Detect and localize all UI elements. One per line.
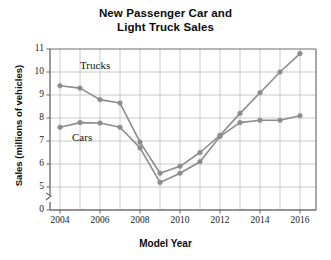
y-tick-label: 10: [22, 66, 44, 76]
data-point: [58, 125, 63, 130]
series-label-trucks: Trucks: [80, 59, 110, 71]
data-point: [78, 86, 83, 91]
series-label-cars: Cars: [72, 131, 92, 143]
data-point: [258, 118, 263, 123]
y-tick-label: 0: [22, 204, 44, 214]
x-tick-label: 2014: [243, 215, 277, 225]
chart-container: New Passenger Car and Light Truck Sales …: [0, 0, 331, 260]
data-point: [178, 164, 183, 169]
x-axis-title: Model Year: [0, 238, 331, 249]
gridlines: [50, 49, 316, 210]
y-tick-label: 6: [22, 158, 44, 168]
y-tick-label: 8: [22, 112, 44, 122]
data-point: [178, 171, 183, 176]
data-point: [58, 84, 63, 89]
data-point: [238, 120, 243, 125]
axis-frame: [46, 49, 316, 210]
data-point: [158, 180, 163, 185]
data-point: [298, 113, 303, 118]
y-tick-label: 9: [22, 89, 44, 99]
chart-title-line-2: Light Truck Sales: [0, 20, 331, 34]
data-point: [198, 150, 203, 155]
data-point: [118, 101, 123, 106]
x-tick-label: 2008: [123, 215, 157, 225]
x-tick-label: 2004: [43, 215, 77, 225]
chart-title-line-1: New Passenger Car and: [0, 6, 331, 20]
y-tick-label: 11: [22, 43, 44, 53]
data-point: [278, 118, 283, 123]
data-point: [138, 140, 143, 145]
data-point: [198, 159, 203, 164]
x-tick-label: 2012: [203, 215, 237, 225]
data-point: [78, 120, 83, 125]
x-tick-label: 2016: [283, 215, 317, 225]
data-point: [218, 134, 223, 139]
y-tick-label: 7: [22, 135, 44, 145]
data-point: [118, 125, 123, 130]
x-tick-label: 2006: [83, 215, 117, 225]
data-point: [278, 70, 283, 75]
data-point: [238, 111, 243, 116]
data-point: [138, 146, 143, 151]
data-point: [298, 51, 303, 56]
y-tick-label: 5: [22, 181, 44, 191]
x-tick-label: 2010: [163, 215, 197, 225]
data-point: [98, 121, 103, 126]
data-point: [158, 171, 163, 176]
chart-title: New Passenger Car and Light Truck Sales: [0, 6, 331, 34]
data-point: [258, 90, 263, 95]
data-point: [98, 97, 103, 102]
